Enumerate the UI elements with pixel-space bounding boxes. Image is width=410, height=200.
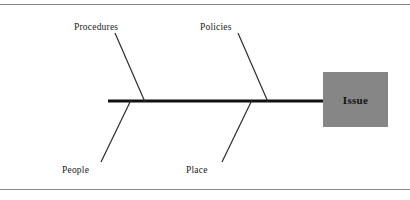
- effect-box: Issue: [323, 72, 388, 127]
- bone-line-policies: [238, 33, 268, 102]
- bone-label-place: Place: [186, 165, 208, 175]
- effect-box-label: Issue: [343, 94, 368, 106]
- fishbone-diagram-figure: Procedures Policies People Place Issue: [0, 0, 410, 200]
- bone-line-procedures: [115, 33, 145, 102]
- bone-label-procedures: Procedures: [74, 22, 118, 32]
- bone-line-people: [101, 100, 131, 162]
- figure-bottom-rule: [0, 189, 410, 190]
- bone-label-people: People: [62, 165, 89, 175]
- bone-label-policies: Policies: [200, 22, 232, 32]
- bone-line-place: [222, 100, 252, 162]
